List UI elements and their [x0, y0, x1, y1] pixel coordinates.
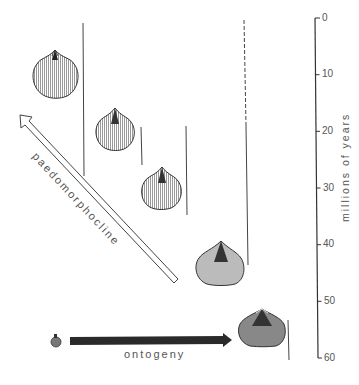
juvenile-shell [51, 334, 61, 347]
range-line-shell-1 [83, 23, 84, 176]
shell-5-adult [238, 309, 285, 347]
diagram-canvas [0, 0, 359, 385]
shell-4 [196, 241, 244, 286]
tick-label-60: 60 [324, 352, 335, 363]
range-line-shell-5 [288, 320, 289, 360]
time-axis [315, 18, 322, 358]
shell-3 [142, 167, 182, 210]
range-line-shell-2 [141, 127, 142, 165]
range-line-shell-3 [186, 126, 187, 215]
tick-label-40: 40 [323, 238, 334, 249]
ontogeny-label: ontogeny [124, 348, 185, 360]
shell-2 [96, 108, 134, 151]
tick-label-10: 10 [322, 68, 333, 79]
shell-1 [33, 50, 78, 98]
ontogeny-arrow [70, 333, 232, 347]
tick-label-30: 30 [323, 182, 334, 193]
tick-label-20: 20 [322, 125, 333, 136]
range-lines [83, 20, 289, 360]
range-line-shell-4-dashed [244, 20, 246, 125]
axis-title: millions of years [339, 113, 351, 222]
range-line-shell-4 [246, 125, 248, 265]
tick-label-50: 50 [324, 295, 335, 306]
tick-label-0: 0 [322, 12, 328, 23]
